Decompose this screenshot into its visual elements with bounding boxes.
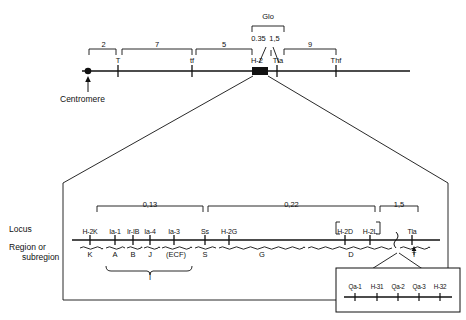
region-label-S: S [202, 251, 207, 259]
chromosome-marker-Tla: Tla [273, 57, 283, 65]
region-underlines [80, 247, 430, 249]
chromosome-line-group [82, 65, 410, 77]
expanded-locus-Ia-4: Ia-4 [144, 228, 155, 235]
region-wave-D [308, 247, 392, 249]
region-label-J: J [148, 251, 152, 259]
distance-brackets-top [89, 49, 336, 55]
h2-complex-block [252, 67, 268, 75]
expanded-locus-Ss: Ss [201, 228, 209, 235]
chromosome-distance-0: 2 [101, 41, 105, 49]
region-wave-ECF [162, 247, 192, 249]
region-label-ECF: (ECF) [166, 251, 186, 259]
expanded-locus-H-2K: H-2K [82, 228, 97, 235]
chromosome-marker-H-2: H-2 [251, 57, 263, 65]
expanded-locus-Tla: Tla [407, 228, 416, 235]
inset-locus-Qa-1: Qa-1 [349, 284, 362, 290]
region-wave-A [106, 247, 125, 249]
inset-locus-H-31: H-31 [371, 284, 383, 290]
region-label-A: A [112, 251, 117, 259]
glo-bracket [252, 26, 284, 32]
region-row-label-line2: subregion [22, 253, 59, 262]
region-label-G: G [259, 251, 265, 259]
expanded-distance-2: 1,5 [394, 201, 404, 209]
chromosome-distance-3: 0.35 [251, 35, 266, 43]
region-label-D: D [348, 251, 353, 259]
region-label-T: T [412, 251, 417, 259]
inset-locus-Qa-2: Qa-2 [392, 284, 405, 290]
genetic-map-figure [0, 0, 466, 320]
chromosome-distance-5: 9 [308, 41, 312, 49]
region-wave-K [80, 247, 103, 249]
inset-locus-Qa-3: Qa-3 [413, 284, 426, 290]
region-row-label-line1: Region or [9, 243, 46, 252]
chromosome-marker-Thf: Thf [331, 57, 342, 65]
region-wave-S [195, 247, 216, 249]
expansion-lines [63, 76, 448, 300]
expanded-locus-Ia-3: Ia-3 [168, 228, 179, 235]
expanded-locus-H-2D: H-2D [337, 228, 353, 235]
region-label-B: B [130, 251, 135, 259]
chromosome-marker-tf: tf [190, 57, 194, 65]
expanded-distance-1: 0,22 [284, 201, 299, 209]
region-label-K: K [87, 251, 92, 259]
expanded-locus-Ia-1: Ia-1 [109, 228, 120, 235]
inset-locus-H-32: H-32 [434, 284, 446, 290]
chromosome-distance-4: 1,5 [269, 35, 279, 43]
chromosome-distance-2: 5 [222, 41, 226, 49]
super-region-label-I: I [149, 274, 151, 282]
centromere-dot [85, 68, 92, 75]
chromosome-distance-1: 7 [155, 41, 159, 49]
region-wave-G [219, 247, 305, 249]
glo-label: Glo [262, 13, 274, 21]
region-wave-B [127, 247, 142, 249]
expanded-distance-0: 0,13 [143, 201, 158, 209]
expanded-locus-H-2G: H-2G [221, 228, 237, 235]
locus-row-label: Locus [9, 225, 32, 234]
centromere-label: Centromere [60, 95, 105, 104]
chromosome-marker-T: T [116, 57, 121, 65]
expanded-locus-Ir-IB: Ir-IB [127, 228, 139, 235]
expanded-locus-H-2L: H-2L [363, 228, 377, 235]
centromere-pointer [85, 76, 91, 92]
region-wave-J [144, 247, 160, 249]
